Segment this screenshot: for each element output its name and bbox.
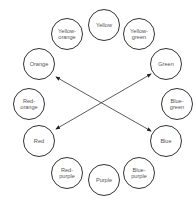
node-orange: Orange <box>23 48 55 80</box>
node-red-purple: Red- purple <box>51 157 83 189</box>
label: Red <box>34 138 44 145</box>
node-yellow-green: Yellow- green <box>123 18 155 50</box>
label: Purple <box>96 177 112 184</box>
label: Yellow- orange <box>58 28 76 41</box>
node-red-orange: Red- orange <box>13 88 45 120</box>
node-blue-purple: Blue- purple <box>123 157 155 189</box>
label: Orange <box>30 61 49 68</box>
arrow-red-green <box>56 74 151 129</box>
node-blue-green: Blue- green <box>161 88 193 120</box>
label: Green <box>158 61 174 68</box>
label: Blue- purple <box>131 167 147 180</box>
label: Red- purple <box>59 167 75 180</box>
node-yellow: Yellow <box>88 9 120 41</box>
label: Yellow <box>96 22 112 29</box>
node-green: Green <box>150 48 182 80</box>
label: Red- orange <box>20 98 37 111</box>
node-yellow-orange: Yellow- orange <box>51 18 83 50</box>
node-purple: Purple <box>88 164 120 196</box>
label: Yellow- green <box>130 28 148 41</box>
label: Blue- green <box>170 98 184 111</box>
arrow-orange-blue <box>56 77 151 131</box>
node-red: Red <box>23 125 55 157</box>
label: Blue <box>160 138 171 145</box>
node-blue: Blue <box>150 125 182 157</box>
